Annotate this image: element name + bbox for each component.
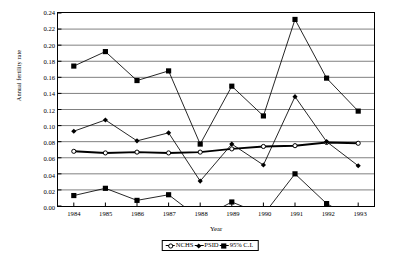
x-tick-label: 1986 bbox=[131, 211, 144, 218]
series-line bbox=[74, 174, 358, 206]
data-point-circle bbox=[261, 144, 265, 148]
data-point-square bbox=[134, 198, 139, 203]
x-tick-label: 1993 bbox=[354, 211, 367, 218]
data-point-diamond bbox=[134, 138, 139, 143]
y-tick-label: 0.04 bbox=[43, 172, 55, 179]
x-tick-label: 1984 bbox=[67, 211, 80, 218]
data-point-circle bbox=[356, 141, 360, 145]
data-point-square bbox=[292, 17, 297, 22]
data-point-diamond bbox=[103, 117, 108, 122]
legend-label: NCHS bbox=[175, 242, 195, 249]
data-point-square bbox=[198, 142, 203, 147]
data-point-circle bbox=[198, 150, 202, 154]
data-point-square bbox=[229, 199, 234, 204]
legend-item-95-c-i[interactable]: 95% C.I. bbox=[220, 242, 255, 249]
chart-legend: NCHSPSID95% C.I. bbox=[162, 240, 259, 251]
y-tick-label: 0.10 bbox=[43, 123, 55, 130]
y-tick-label: 0.16 bbox=[43, 75, 55, 82]
legend-item-psid[interactable]: PSID bbox=[194, 242, 219, 249]
data-point-square bbox=[134, 78, 139, 83]
series-95-c-i bbox=[71, 171, 358, 206]
data-point-square bbox=[166, 192, 171, 197]
data-point-square bbox=[324, 201, 329, 206]
legend-circle-icon bbox=[166, 245, 175, 246]
x-tick-label: 1991 bbox=[290, 211, 303, 218]
data-series-layer bbox=[58, 13, 374, 206]
data-point-square bbox=[229, 84, 234, 89]
data-point-circle bbox=[72, 149, 76, 153]
data-point-square bbox=[222, 243, 227, 248]
legend-item-nchs[interactable]: NCHS bbox=[166, 242, 195, 249]
data-point-circle bbox=[167, 151, 171, 155]
y-tick-label: 0.08 bbox=[43, 140, 55, 147]
series-95-c-i bbox=[71, 17, 361, 147]
legend-square-icon bbox=[220, 245, 229, 246]
series-psid bbox=[71, 94, 361, 184]
x-tick-label: 1985 bbox=[99, 211, 112, 218]
legend-label: PSID bbox=[203, 242, 219, 249]
data-point-circle bbox=[103, 151, 107, 155]
data-point-square bbox=[103, 49, 108, 54]
legend-diamond-icon bbox=[194, 245, 203, 246]
data-point-square bbox=[356, 109, 361, 114]
y-tick-label: 0.02 bbox=[43, 188, 55, 195]
chart-figure: Annual fertility rate 0.000.020.040.060.… bbox=[0, 0, 420, 265]
data-point-circle bbox=[293, 144, 297, 148]
x-tick-label: 1988 bbox=[195, 211, 208, 218]
data-point-diamond bbox=[166, 130, 171, 135]
x-axis-title: Year bbox=[58, 225, 374, 232]
y-tick-label: 0.14 bbox=[43, 91, 55, 98]
y-tick-label: 0.06 bbox=[43, 156, 55, 163]
data-point-square bbox=[292, 171, 297, 176]
plot-area: 0.000.020.040.060.080.100.120.140.160.18… bbox=[57, 12, 375, 207]
data-point-circle bbox=[168, 244, 172, 248]
x-tick-label: 1987 bbox=[163, 211, 176, 218]
data-point-diamond bbox=[292, 94, 297, 99]
series-line bbox=[74, 142, 358, 152]
y-tick-label: 0.20 bbox=[43, 42, 55, 49]
y-tick-label: 0.24 bbox=[43, 10, 55, 17]
data-point-square bbox=[71, 64, 76, 69]
y-tick-label: 0.18 bbox=[43, 58, 55, 65]
y-tick-label: 0.00 bbox=[43, 205, 55, 212]
data-point-square bbox=[71, 193, 76, 198]
x-tick-label: 1990 bbox=[258, 211, 271, 218]
y-tick-label: 0.12 bbox=[43, 107, 55, 114]
legend-label: 95% C.I. bbox=[229, 242, 255, 249]
y-axis-title: Annual fertility rate bbox=[15, 16, 22, 136]
series-line bbox=[74, 97, 358, 181]
series-nchs bbox=[72, 140, 361, 155]
x-tick-label: 1989 bbox=[226, 211, 239, 218]
data-point-diamond bbox=[71, 129, 76, 134]
data-point-circle bbox=[135, 150, 139, 154]
data-point-square bbox=[103, 186, 108, 191]
data-point-square bbox=[261, 113, 266, 118]
data-point-diamond bbox=[196, 243, 201, 248]
data-point-diamond bbox=[261, 162, 266, 167]
data-point-square bbox=[324, 76, 329, 81]
y-tick-label: 0.22 bbox=[43, 26, 55, 33]
data-point-square bbox=[166, 68, 171, 73]
data-point-circle bbox=[230, 147, 234, 151]
x-tick-label: 1992 bbox=[322, 211, 335, 218]
